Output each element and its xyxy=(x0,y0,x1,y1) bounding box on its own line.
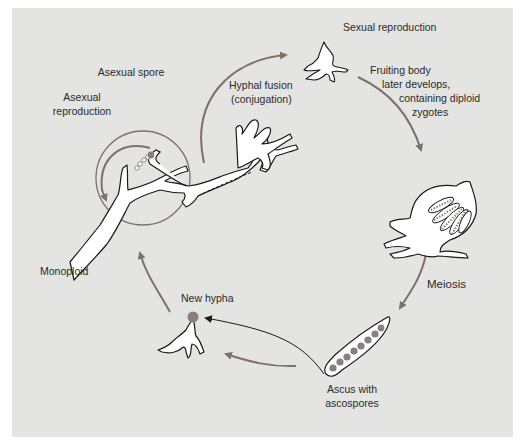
ascospore xyxy=(378,325,385,332)
ascus xyxy=(325,317,390,376)
life-cycle-diagram xyxy=(0,0,526,445)
meiosis-arrow xyxy=(400,254,426,308)
conjugating-hypha xyxy=(236,120,292,170)
label-sexual-reproduction: Sexual reproduction xyxy=(343,21,436,34)
ascus-to-hypha-arrow xyxy=(226,354,296,366)
ascospore xyxy=(364,336,371,343)
label-fruiting-body-line3: containing diploid xyxy=(399,92,480,105)
label-asexual-spore: Asexual spore xyxy=(86,66,176,79)
label-asexual-reproduction-line2: reproduction xyxy=(42,105,122,118)
label-asexual-reproduction-line1: Asexual xyxy=(42,91,122,104)
germinating-spore xyxy=(188,312,199,323)
label-fruiting-body-line1: Fruiting body xyxy=(370,64,431,77)
ascospore xyxy=(357,342,364,349)
label-ascus-line1: Ascus with xyxy=(322,383,382,396)
ascospore xyxy=(350,347,357,354)
label-ascus-line2: ascospores xyxy=(322,397,382,410)
zygote-body xyxy=(304,42,348,82)
ascospore xyxy=(336,358,343,365)
label-meiosis: Meiosis xyxy=(427,278,466,291)
new-hypha-to-monoploid-arrow xyxy=(140,253,170,312)
label-hyphal-fusion-line2: (conjugation) xyxy=(231,93,292,106)
ascospore xyxy=(371,330,378,337)
ascospore-release-line xyxy=(206,318,324,374)
new-hypha xyxy=(158,312,204,359)
ascospore xyxy=(343,353,350,360)
ascospore xyxy=(329,364,336,371)
label-hyphal-fusion-line1: Hyphal fusion xyxy=(229,79,293,92)
label-fruiting-body-line2: later develops, xyxy=(382,78,450,91)
label-new-hypha: New hypha xyxy=(181,292,234,305)
fruiting-body xyxy=(384,181,476,258)
label-fruiting-body-line4: zygotes xyxy=(412,106,448,119)
label-monoploid: Monoploid xyxy=(40,265,88,278)
